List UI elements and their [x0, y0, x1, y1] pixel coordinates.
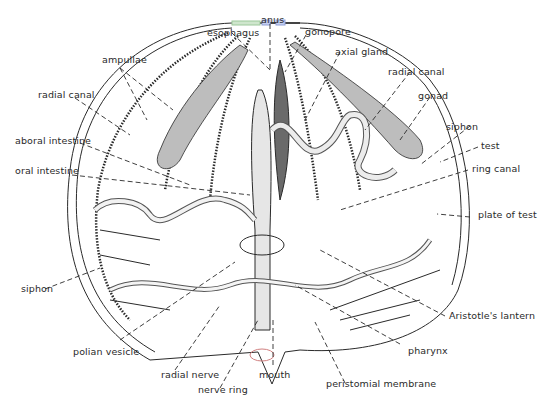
label-radial-canal-right: radial canal [388, 67, 445, 77]
label-mouth: mouth [259, 370, 290, 380]
label-test: test [481, 141, 500, 151]
label-anus: anus [261, 15, 284, 25]
label-aboral-intestine: aboral intestine [15, 136, 91, 146]
label-ring-canal: ring canal [472, 164, 520, 174]
label-axial-gland: axial gland [335, 47, 388, 57]
label-esophagus: esophagus [207, 28, 259, 38]
label-ampullae: ampullae [102, 55, 147, 65]
label-siphon-right: siphon [446, 122, 478, 132]
sea-urchin-anatomy-diagram: esophagus anus gonopore ampullae axial g… [0, 0, 540, 409]
label-polian-vesicle: polian vesicle [73, 347, 139, 357]
label-pharynx: pharynx [408, 346, 448, 356]
label-nerve-ring: nerve ring [198, 385, 248, 395]
label-oral-intestine: oral intestine [15, 166, 79, 176]
label-aristotles-lantern: Aristotle's lantern [449, 311, 535, 321]
label-radial-nerve: radial nerve [161, 370, 219, 380]
label-peristomial-membrane: peristomial membrane [326, 379, 436, 389]
label-radial-canal-left: radial canal [38, 90, 95, 100]
gonad-left [157, 45, 248, 169]
label-gonopore: gonopore [305, 27, 351, 37]
label-plate-of-test: plate of test [478, 210, 537, 220]
label-siphon-left: siphon [21, 284, 53, 294]
label-gonad: gonad [418, 91, 448, 101]
